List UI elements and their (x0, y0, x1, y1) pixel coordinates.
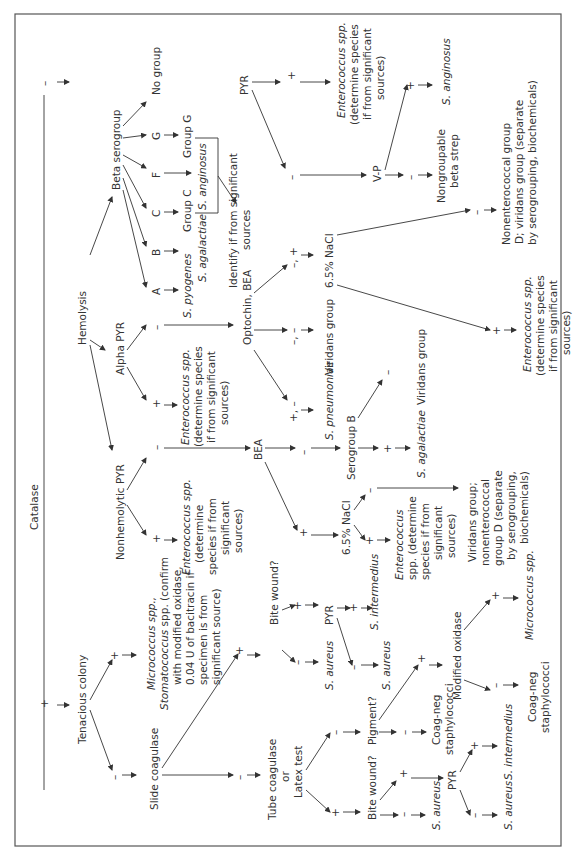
serob-neg: – (381, 370, 393, 375)
hemolysis: Hemolysis (76, 291, 88, 345)
flowchart-diagram: Catalase – + Hemolysis Beta serogroup Al… (0, 0, 575, 859)
beta-serogroup: Beta serogroup (110, 109, 122, 190)
nacl-alpha-pos: + (490, 326, 502, 335)
bite2-neg: – (397, 812, 409, 817)
diagram-frame (15, 14, 561, 846)
beta-entero-4: sources) (374, 56, 386, 100)
tube-coag-1: Tube coagulase (266, 739, 278, 821)
beta-entero-1: Enterococcus spp. (335, 22, 347, 118)
vp: V-P (371, 165, 383, 182)
bea-neg: – (297, 450, 309, 455)
optochin-bea: Optochin, BEA (241, 269, 253, 345)
coag-neg-staph-mo-1: Coag-neg (526, 672, 538, 722)
micrococcus: Micrococcus spp. (523, 550, 535, 640)
opt-pos-neg: +, – (287, 401, 299, 422)
viridans-nonentero-5: biochemicals) (518, 471, 530, 544)
nacl-nonhemo-entero-2: spp. (determine (406, 496, 418, 580)
viridans-nonentero-1: Viridans group; (466, 482, 478, 562)
s-intermedius-2: S. intermedius (502, 703, 514, 780)
beta-pyr: PYR (238, 75, 250, 95)
beta-a: A (150, 287, 162, 295)
beta-b: B (150, 249, 162, 256)
alpha-entero-2: (determine species (192, 346, 204, 447)
pyr-2: PYR (446, 770, 458, 790)
bite-wound-1: Bite wound? (268, 560, 280, 625)
tube-neg: – (329, 730, 341, 735)
serogroup-b: Serogroup B (345, 415, 357, 480)
group-g: Group G (181, 115, 193, 158)
pyr2-pos: + (468, 741, 480, 750)
beta-f: F (150, 172, 162, 178)
mo-neg: – (489, 683, 501, 688)
bea: BEA (252, 438, 264, 460)
slide-coagulase: Slide coagulase (148, 728, 160, 810)
nacl-nonhemo-entero-5: sources) (445, 514, 457, 558)
tenacious-colony: Tenacious colony (76, 655, 88, 745)
nacl-nonhemo-entero-1: Enterococcus (393, 509, 405, 580)
nonhemo-pos: + (150, 534, 162, 543)
nacl-alpha-neg: – (470, 210, 482, 215)
beta-c: C (150, 210, 162, 217)
bea-pos: + (297, 528, 309, 537)
alpha-nacl-entero-3: if from significant (547, 280, 559, 372)
identify-sig-1: Identify if from significant (227, 153, 239, 288)
coag-neg-staph-pig-1: Coag-neg (430, 695, 442, 745)
serob-pos: + (381, 444, 393, 453)
catalase-pos: + (38, 699, 50, 708)
alpha-nacl-entero-4: sources) (560, 311, 572, 355)
labels: Catalase – + Hemolysis Beta serogroup Al… (28, 22, 572, 830)
mo-pos: + (489, 591, 501, 600)
nonentero-d-3: by serogrouping, biochemicals) (526, 80, 538, 245)
nongroupable-1: Nongroupable (435, 129, 447, 203)
bite2-pos: + (397, 769, 409, 778)
alpha-pos: + (150, 399, 162, 408)
opt-neg-pos: –, + (287, 247, 299, 268)
pyr-1: PYR (323, 605, 335, 625)
tube-coag-2: or (279, 771, 291, 782)
beta-pyr-neg: – (285, 175, 297, 180)
viridans-nonentero-3: group D (separate (492, 470, 504, 566)
viridans-nonentero-4: by serogrouping, (505, 471, 517, 560)
nacl-nonhemo-pos: + (363, 536, 375, 545)
beta-g: G (150, 132, 162, 140)
group-c: Group C (181, 189, 193, 232)
micrococcus-stomato-1: Micrococcus spp., (145, 597, 157, 690)
s-aureus-3: S. aureus (430, 780, 442, 830)
micrococcus-stomato-4: 0.04 U of bacitracin if (184, 572, 196, 685)
nonhemo-neg: – (150, 445, 162, 450)
nacl-nonhemo-entero-3: species if from (419, 503, 431, 580)
slide-neg: – (233, 775, 245, 780)
catalase-neg: – (38, 81, 50, 86)
identify-sig-2: sources (240, 210, 252, 250)
nonhemo-entero-5: sources) (232, 509, 244, 553)
beta-pyr-pos: + (285, 71, 297, 80)
bite-wound-2: Bite wound? (366, 755, 378, 820)
s-agalactiae-beta: S. agalactiae (196, 214, 208, 282)
s-intermedius-1: S. intermedius (368, 553, 380, 630)
nonhemolytic-pyr: Nonhemolytic PYR (114, 464, 126, 560)
nonhemo-entero-3: species if from (206, 498, 218, 575)
micrococcus-stomato-2: Stomatococcus spp. (confirm (158, 557, 170, 710)
beta-entero-2: (determine species (348, 24, 360, 125)
micrococcus-stomato-5: specimen is from (197, 595, 209, 685)
nonentero-d-1: Nonenterococcal group (500, 123, 512, 245)
nonhemo-entero-4: significant (219, 501, 231, 555)
pyr1-neg: – (347, 665, 359, 670)
alpha-entero-3: if from significant (205, 351, 217, 443)
nacl-nonhemo-neg: – (363, 488, 375, 493)
beta-entero-3: if from significant (361, 28, 373, 120)
coag-neg-staph-mo-2: staphylococci (539, 661, 551, 733)
nonhemo-entero-1: Enterococcus spp. (180, 479, 192, 575)
alpha-entero-1: Enterococcus spp. (179, 349, 191, 445)
alpha-nacl-entero-2: (determine species (534, 275, 546, 376)
modified-oxidase: Modified oxidase (451, 612, 463, 700)
s-aureus-1: S. aureus (323, 640, 335, 690)
alpha-pyr: Alpha PYR (114, 322, 126, 375)
nonentero-d-2: D; viridans group (separate (513, 100, 525, 244)
nacl-nonhemo-entero-4: significant (432, 506, 444, 560)
nacl-nonhemo: 6.5% NaCl (340, 500, 352, 555)
s-pneumoniae: S. pneumoniae (323, 361, 335, 440)
s-aureus-2: S. aureus (380, 640, 392, 690)
s-aureus-4: S. aureus (502, 780, 514, 830)
opt-neg-neg: –, – (287, 328, 299, 345)
